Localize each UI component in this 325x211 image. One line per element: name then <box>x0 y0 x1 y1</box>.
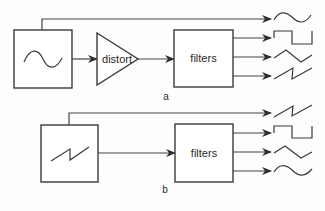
direct-wire-a <box>42 19 271 30</box>
filters-label-a: filters <box>190 52 217 64</box>
oscillator-a <box>14 30 72 88</box>
output-sine-icon-a <box>274 13 311 22</box>
part-label-b: b <box>162 184 168 195</box>
output-square-icon-a <box>274 31 312 44</box>
output-triangle-icon-a <box>274 50 312 62</box>
part-label-a: a <box>163 91 169 102</box>
part-b: filters b <box>41 105 312 195</box>
signal-flow-diagram: distort filters a filters <box>0 0 325 211</box>
filters-block-a: filters <box>174 30 233 87</box>
oscillator-b <box>41 125 98 182</box>
direct-wire-b <box>69 113 271 125</box>
filters-label-b: filters <box>191 147 218 159</box>
output-sawtooth-icon-b <box>274 105 312 117</box>
filters-block-b: filters <box>175 124 233 182</box>
distort-label: distort <box>102 53 132 65</box>
output-sine-icon-b <box>274 166 312 175</box>
output-sawtooth-icon-a <box>274 68 312 79</box>
output-square-icon-b <box>274 126 312 138</box>
part-a: distort filters a <box>14 13 312 102</box>
output-triangle-icon-b <box>274 146 312 158</box>
distort-block: distort <box>97 33 138 85</box>
